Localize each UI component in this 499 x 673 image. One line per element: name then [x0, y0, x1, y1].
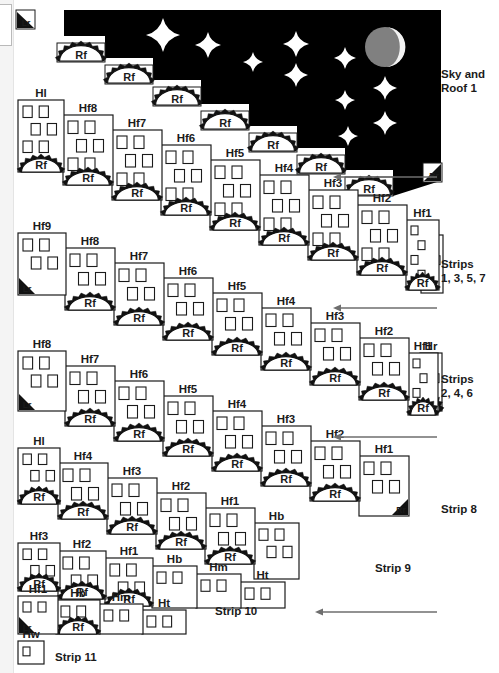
- window-pane: [94, 140, 104, 153]
- window-pane: [390, 481, 400, 494]
- roof-label-rf: Rf: [315, 161, 327, 173]
- label-sky-and-roof-1: Sky and Roof 1: [441, 68, 485, 95]
- roof-label-rf: Rf: [329, 488, 341, 500]
- roof-label-rf: Rf: [180, 202, 192, 214]
- window-pane: [275, 451, 285, 464]
- cityscape-artwork: LrRfRfRfRfRfRfRfRrHrHf1RfHf2RfHf3RfHf4Rf…: [0, 0, 499, 673]
- window-pane: [46, 471, 54, 482]
- window-pane: [219, 533, 229, 546]
- roof-label-rf: Rf: [231, 458, 243, 470]
- window-pane: [185, 402, 195, 415]
- roof-label-rf: Rf: [267, 139, 279, 151]
- building-label-hf5: Hf5: [228, 280, 247, 292]
- roof-label-rr-sky: Rr: [429, 171, 439, 181]
- building-label-hf8: Hf8: [81, 235, 100, 247]
- window-pane: [23, 239, 33, 251]
- window-pane: [31, 124, 40, 136]
- building-label-hf3: Hf3: [123, 465, 142, 477]
- building-hw-s11-0: [18, 641, 44, 664]
- diagram-canvas: LrRfRfRfRfRfRfRfRrHrHf1RfHf2RfHf3RfHf4Rf…: [0, 0, 499, 673]
- roof-label-rr: Rr: [396, 505, 406, 515]
- window-pane: [215, 203, 225, 216]
- window-pane: [68, 121, 78, 134]
- building-label-hb: Hb: [167, 553, 182, 565]
- window-pane: [23, 602, 31, 612]
- window-pane: [31, 375, 41, 387]
- window-pane: [173, 572, 182, 583]
- building-label-hf1: Hf1: [414, 340, 433, 352]
- window-pane: [224, 185, 234, 198]
- building-label-hl: Hl: [35, 87, 47, 99]
- building-label-hf1: Hf1: [375, 443, 394, 455]
- window-pane: [39, 141, 48, 153]
- window-pane: [63, 557, 73, 569]
- window-pane: [341, 466, 351, 479]
- window-pane: [264, 218, 274, 231]
- roof-label-rf: Rf: [33, 491, 45, 503]
- roof-label-rf: Rf: [77, 506, 89, 518]
- window-pane: [281, 181, 291, 194]
- label-strip-10: Strip 10: [215, 605, 257, 619]
- window-pane: [128, 288, 138, 301]
- building-label-hm: Hm: [209, 561, 228, 573]
- window-pane: [168, 284, 178, 297]
- roof-label-rf: Rf: [280, 473, 292, 485]
- window-pane: [166, 151, 176, 164]
- window-pane: [362, 211, 372, 224]
- building-label-hf1: Hf1: [29, 583, 48, 595]
- window-pane: [177, 303, 187, 316]
- window-pane: [126, 155, 136, 168]
- window-pane: [127, 564, 137, 576]
- window-pane: [315, 447, 325, 460]
- building-label-hf6: Hf6: [177, 132, 196, 144]
- building-label-hf4: Hf4: [277, 295, 296, 307]
- window-pane: [63, 469, 73, 482]
- window-pane: [175, 170, 185, 183]
- roof-label-rf: Rf: [378, 387, 390, 399]
- building-label-hw: Hw: [22, 628, 39, 640]
- window-pane: [48, 257, 58, 269]
- window-pane: [77, 606, 86, 617]
- window-pane: [226, 318, 236, 331]
- window-pane: [332, 329, 342, 342]
- window-pane: [85, 121, 95, 134]
- window-pane: [40, 239, 50, 251]
- window-pane: [177, 421, 187, 434]
- window-pane: [362, 248, 372, 261]
- building-label-hf4: Hf4: [74, 450, 93, 462]
- roof-label-rf: Rf: [84, 297, 96, 309]
- building-label-hf1: Hf1: [120, 545, 139, 557]
- building-label-hf5: Hf5: [226, 147, 245, 159]
- window-pane: [234, 299, 244, 312]
- window-pane: [87, 372, 97, 385]
- roof-label-lr: Lr: [23, 284, 32, 294]
- building-label-hf9: Hf9: [33, 220, 52, 232]
- window-pane: [283, 432, 293, 445]
- window-pane: [390, 363, 400, 376]
- window-pane: [245, 588, 254, 599]
- window-pane: [23, 454, 31, 465]
- window-pane: [70, 254, 80, 267]
- window-pane: [364, 344, 374, 357]
- window-pane: [201, 580, 210, 591]
- building-ht-s10-3: [142, 610, 186, 634]
- roof-label-rf: Rf: [35, 159, 47, 171]
- window-pane: [388, 230, 398, 243]
- window-pane: [183, 151, 193, 164]
- window-pane: [187, 518, 197, 531]
- window-pane: [330, 196, 340, 209]
- window-pane: [38, 602, 46, 612]
- building-body: [18, 641, 44, 664]
- window-pane: [96, 391, 106, 404]
- building-label-hf1: Hf1: [413, 207, 432, 219]
- window-pane: [381, 462, 391, 475]
- window-pane: [178, 499, 188, 512]
- window-pane: [46, 566, 54, 577]
- building-label-hb: Hb: [70, 587, 85, 599]
- window-pane: [379, 211, 389, 224]
- window-pane: [31, 471, 39, 482]
- window-pane: [31, 257, 41, 269]
- window-pane: [266, 432, 276, 445]
- window-pane: [215, 166, 225, 179]
- window-pane: [324, 348, 334, 361]
